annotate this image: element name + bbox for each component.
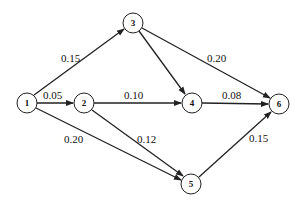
- edge-label-3-6: 0.20: [207, 52, 227, 64]
- node-label-6: 6: [277, 99, 282, 109]
- edge-label-4-6: 0.08: [222, 89, 242, 101]
- edge-label-1-2: 0.05: [43, 89, 63, 101]
- edge-3-4: [139, 31, 185, 94]
- node-label-2: 2: [82, 98, 87, 108]
- edge-label-5-6: 0.15: [249, 132, 269, 144]
- node-2: 2: [74, 93, 94, 113]
- edge-3-6: [142, 28, 270, 98]
- node-3: 3: [123, 13, 143, 33]
- node-label-4: 4: [190, 98, 195, 108]
- node-4: 4: [182, 93, 202, 113]
- node-label-1: 1: [25, 98, 30, 108]
- edge-label-1-5: 0.20: [64, 133, 84, 145]
- node-label-3: 3: [131, 18, 136, 28]
- network-diagram: 0.15 0.05 0.20 0.10 0.12 0.20 0.08 0.15 …: [0, 0, 305, 206]
- edge-4-6: [202, 103, 268, 104]
- node-5: 5: [181, 174, 201, 194]
- edge-label-1-3: 0.15: [61, 52, 81, 64]
- edge-5-6: [199, 112, 271, 177]
- node-1: 1: [17, 93, 37, 113]
- edge-1-5: [36, 108, 181, 180]
- node-label-5: 5: [189, 179, 194, 189]
- edge-label-2-4: 0.10: [124, 89, 144, 101]
- edge-label-2-5: 0.12: [137, 133, 156, 145]
- node-6: 6: [269, 94, 289, 114]
